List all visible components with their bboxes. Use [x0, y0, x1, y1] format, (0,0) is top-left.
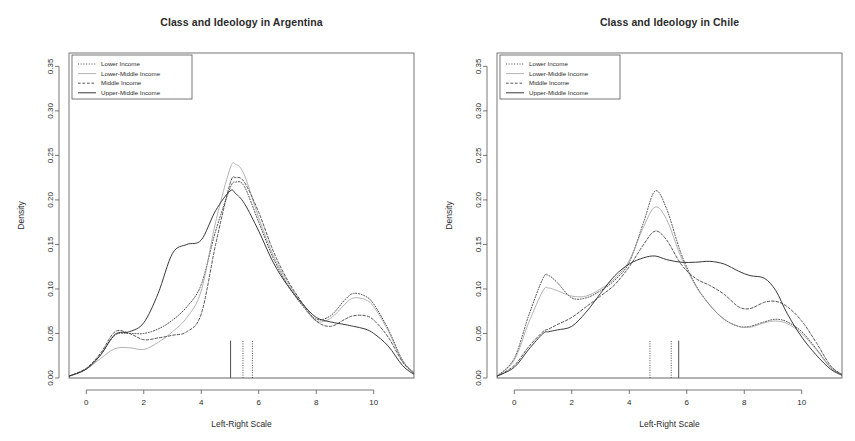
legend-label: Lower Income: [529, 60, 568, 67]
x-tick-label: 4: [199, 398, 204, 407]
density-curve: [497, 207, 842, 376]
density-curve: [497, 231, 842, 376]
x-axis-label: Left-Right Scale: [211, 419, 272, 429]
y-tick-label: 0.10: [46, 281, 55, 297]
curves-group: [497, 191, 842, 378]
x-tick-label: 2: [142, 398, 147, 407]
x-tick-label: 6: [685, 398, 690, 407]
y-tick-label: 0.35: [474, 58, 483, 74]
legend-label: Middle Income: [101, 79, 142, 86]
legend-label: Lower Income: [101, 60, 140, 67]
y-axis-label: Density: [444, 201, 454, 230]
x-axis-label: Left-Right Scale: [639, 419, 700, 429]
legend-label: Middle Income: [529, 79, 570, 86]
legend-label: Lower-Middle Income: [101, 70, 161, 77]
x-tick-label: 6: [257, 398, 262, 407]
density-curve: [497, 256, 842, 376]
y-tick-label: 0.20: [474, 192, 483, 208]
figure-root: Class and Ideology in Argentina0.000.050…: [0, 0, 855, 441]
y-tick-label: 0.25: [474, 147, 483, 163]
y-axis-label: Density: [16, 201, 26, 230]
y-tick-label: 0.05: [46, 325, 55, 341]
y-tick-label: 0.35: [46, 58, 55, 74]
y-tick-label: 0.05: [474, 325, 483, 341]
y-tick-label: 0.15: [46, 236, 55, 252]
y-tick-label: 0.25: [46, 147, 55, 163]
x-tick-label: 4: [627, 398, 632, 407]
x-tick-label: 0: [84, 398, 89, 407]
density-curve: [69, 177, 414, 377]
density-curve: [69, 190, 414, 376]
chart-title: Class and Ideology in Argentina: [160, 16, 323, 28]
density-curve: [69, 182, 414, 377]
legend-label: Upper-Middle Income: [101, 89, 161, 96]
y-tick-label: 0.10: [474, 281, 483, 297]
y-tick-label: 0.15: [474, 236, 483, 252]
x-tick-label: 10: [369, 398, 378, 407]
x-tick-label: 2: [570, 398, 575, 407]
y-tick-label: 0.30: [46, 103, 55, 119]
x-tick-label: 10: [797, 398, 806, 407]
plot-frame: [497, 53, 842, 378]
density-curve: [497, 191, 842, 377]
x-tick-label: 8: [314, 398, 319, 407]
y-tick-label: 0.00: [474, 370, 483, 386]
y-tick-label: 0.20: [46, 192, 55, 208]
y-tick-label: 0.00: [46, 370, 55, 386]
x-tick-label: 0: [512, 398, 517, 407]
legend-label: Lower-Middle Income: [529, 70, 589, 77]
curves-group: [69, 163, 414, 378]
x-tick-label: 8: [742, 398, 747, 407]
chart-title: Class and Ideology in Chile: [600, 16, 739, 28]
chart-panel-argentina: Class and Ideology in Argentina0.000.050…: [0, 0, 427, 441]
legend-label: Upper-Middle Income: [529, 89, 589, 96]
density-curve: [69, 163, 414, 377]
chart-panel-chile: Class and Ideology in Chile0.000.050.100…: [428, 0, 855, 441]
plot-frame: [69, 53, 414, 378]
y-tick-label: 0.30: [474, 103, 483, 119]
